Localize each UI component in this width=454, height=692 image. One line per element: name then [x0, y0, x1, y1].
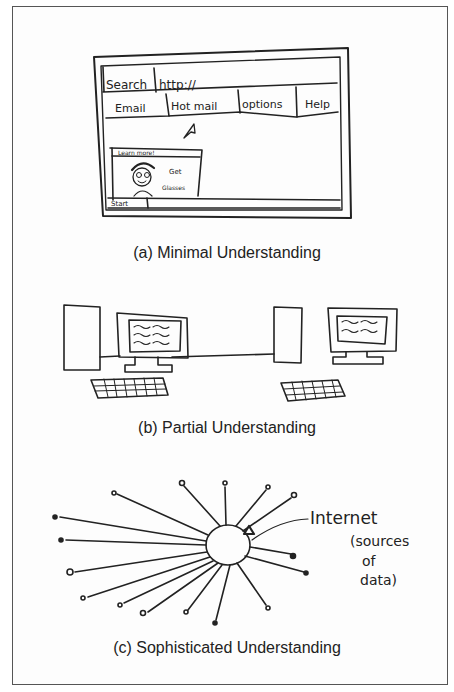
- url-text: http://: [159, 78, 197, 92]
- browser-sketch: [94, 48, 351, 218]
- caption-partial-understanding: (b) Partial Understanding: [0, 419, 454, 437]
- menu-item-options: options: [242, 98, 283, 111]
- menu-item-help: Help: [305, 98, 330, 111]
- ad-banner-text: Learn more!: [118, 149, 155, 156]
- menu-item-hotmail: Hot mail: [171, 100, 217, 113]
- menu-item-email: Email: [115, 102, 146, 115]
- annotation-internet: Internet: [310, 508, 378, 528]
- search-label: Search: [106, 78, 147, 92]
- annotation-of: of: [362, 553, 377, 569]
- computer-left: [64, 305, 188, 398]
- caption-minimal-understanding: (a) Minimal Understanding: [0, 244, 454, 262]
- internet-hub-diagram: [53, 481, 308, 626]
- ad-text-get: Get: [169, 168, 182, 176]
- ad-text-glasses: Glasses: [162, 184, 185, 191]
- caption-sophisticated-understanding: (c) Sophisticated Understanding: [0, 639, 454, 657]
- annotation-sources: (sources: [350, 533, 409, 549]
- figure-sketches: Search http:// Email Hot mail options He…: [0, 0, 454, 692]
- computer-right: [274, 307, 397, 401]
- annotation-data: data): [360, 572, 397, 588]
- start-button-label: Start: [111, 200, 128, 208]
